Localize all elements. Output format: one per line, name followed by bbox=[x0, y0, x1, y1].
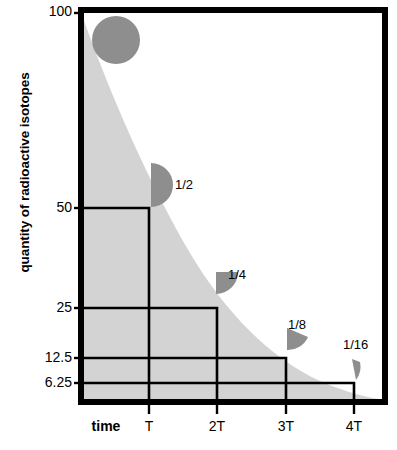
y-tick-label-6-25: 6.25 bbox=[18, 375, 72, 389]
fraction-label-one-half: 1/2 bbox=[175, 178, 193, 191]
y-tick-label-100: 100 bbox=[18, 4, 72, 18]
radioactive-decay-chart: quantity of radioactive isotopes 100 50 … bbox=[0, 0, 397, 450]
x-tick-label-4T: 4T bbox=[334, 419, 374, 433]
fraction-label-one-eighth: 1/8 bbox=[288, 318, 306, 331]
x-tick-label-2T: 2T bbox=[197, 419, 237, 433]
x-tick-label-T: T bbox=[129, 419, 169, 433]
full-circle-shape bbox=[92, 16, 140, 64]
x-axis-title-time: time bbox=[78, 419, 134, 433]
fraction-label-one-sixteenth: 1/16 bbox=[343, 338, 368, 351]
y-tick-label-50: 50 bbox=[18, 200, 72, 214]
half-circle-shape bbox=[151, 163, 173, 207]
y-axis-title: quantity of radioactive isotopes bbox=[17, 43, 32, 303]
y-tick-label-25: 25 bbox=[18, 300, 72, 314]
fraction-label-one-quarter: 1/4 bbox=[228, 268, 246, 281]
y-tick-label-12-5: 12.5 bbox=[18, 350, 72, 364]
sixteenth-wedge-shape bbox=[352, 359, 361, 380]
x-tick-label-3T: 3T bbox=[266, 419, 306, 433]
